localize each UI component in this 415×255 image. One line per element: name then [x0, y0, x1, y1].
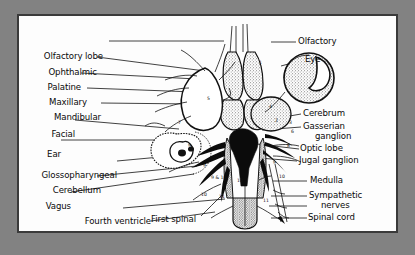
eye-structure: [265, 53, 334, 112]
svg-text:6: 6: [291, 129, 294, 134]
svg-text:9: 9: [188, 143, 191, 148]
brain-body: [220, 24, 291, 229]
svg-text:3: 3: [289, 120, 292, 125]
label-first-spinal: First spinal: [151, 215, 196, 224]
svg-text:5: 5: [207, 96, 210, 101]
svg-text:11: 11: [219, 194, 225, 199]
label-gasserian-ganglion-line2: ganglion: [315, 132, 351, 141]
label-eye: Eye: [305, 55, 321, 64]
svg-text:10: 10: [201, 192, 207, 197]
svg-text:8: 8: [287, 143, 290, 148]
label-olfactory: Olfactory: [298, 37, 337, 46]
label-glossopharyngeal: Glossopharyngeal: [21, 171, 117, 180]
label-ear: Ear: [25, 150, 61, 159]
label-mandibular: Mandibular: [25, 113, 101, 122]
label-palatine: Palatine: [25, 83, 81, 92]
label-jugal-ganglion: Jugal ganglion: [299, 156, 359, 165]
label-olfactory-lobe: Olfactory lobe: [25, 52, 103, 61]
label-ophthalmic: Ophthalmic: [25, 68, 97, 77]
svg-text:7: 7: [178, 120, 181, 125]
illustration-plate: 1 2 3 4 5 6 7 8 9 9 9 & 10 10 9 10 10 11…: [19, 16, 396, 231]
label-cerebrum: Cerebrum: [303, 109, 345, 118]
svg-text:10: 10: [279, 174, 285, 179]
label-optic-lobe: Optic lobe: [300, 144, 343, 153]
svg-text:11: 11: [263, 198, 269, 203]
label-facial: Facial: [25, 130, 75, 139]
label-fourth-ventricle: Fourth ventricle: [23, 217, 151, 226]
label-vagus: Vagus: [25, 202, 71, 211]
label-sympathetic: Sympathetic: [309, 191, 362, 200]
svg-text:9 & 10: 9 & 10: [211, 175, 226, 180]
svg-text:1: 1: [259, 60, 262, 65]
svg-text:10: 10: [237, 178, 243, 183]
label-maxillary: Maxillary: [25, 98, 87, 107]
label-sympathetic-nerves-line2: nerves: [321, 201, 350, 210]
picture-frame: 1 2 3 4 5 6 7 8 9 9 9 & 10 10 9 10 10 11…: [0, 0, 415, 255]
svg-text:4: 4: [269, 104, 272, 109]
label-cerebellum: Cerebellum: [25, 186, 101, 195]
svg-text:9: 9: [273, 160, 276, 165]
svg-text:2: 2: [275, 118, 278, 123]
label-medulla: Medulla: [310, 176, 343, 185]
label-spinal-cord: Spinal cord: [308, 213, 355, 222]
label-gasserian: Gasserian: [303, 122, 345, 131]
svg-text:9: 9: [203, 163, 206, 168]
